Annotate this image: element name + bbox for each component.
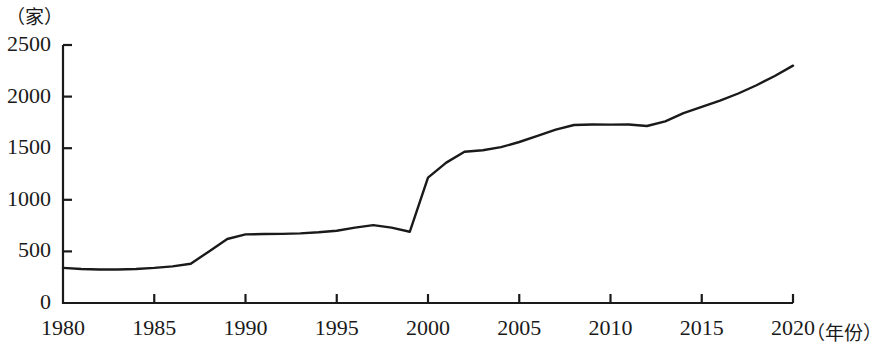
x-axis-tick-label: 2010 [581, 317, 641, 339]
x-axis-tick-label: 2000 [398, 317, 458, 339]
y-axis-tick-label: 1500 [7, 136, 51, 158]
y-axis-tick-label: 500 [18, 239, 51, 261]
y-axis-tick-label: 2500 [7, 33, 51, 55]
line-chart-figure: （家） （年份） 05001000150020002500 1980198519… [0, 0, 894, 345]
y-axis-ticks [63, 45, 72, 251]
x-axis-tick-label: 1995 [307, 317, 367, 339]
x-axis-tick-label: 1980 [33, 317, 93, 339]
y-axis-tick-label: 1000 [7, 188, 51, 210]
x-axis-tick-label: 2015 [672, 317, 732, 339]
chart-plot-area [0, 0, 894, 345]
x-axis-tick-label: 2020 [763, 317, 823, 339]
chart-axes [63, 45, 793, 303]
y-axis-tick-label: 2000 [7, 85, 51, 107]
x-axis-ticks [154, 294, 793, 303]
y-axis-tick-label: 0 [40, 291, 51, 313]
x-axis-tick-label: 2005 [489, 317, 549, 339]
x-axis-tick-label: 1990 [216, 317, 276, 339]
data-series-line [63, 66, 793, 270]
axis-lines [63, 45, 793, 303]
x-axis-tick-label: 1985 [124, 317, 184, 339]
